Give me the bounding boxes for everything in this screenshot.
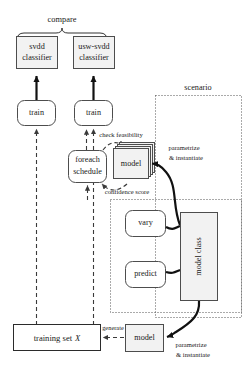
usw-svdd-classifier-label-line2: classifier bbox=[79, 53, 109, 62]
generate-label: generate bbox=[102, 324, 124, 331]
edge-model-class-to-model-bottom bbox=[167, 301, 199, 337]
train-right-label: train bbox=[86, 108, 101, 117]
compare-label: compare bbox=[48, 15, 77, 24]
foreach-schedule-label-line2: schedule bbox=[73, 167, 102, 176]
check-feasibility-label: check feasibility bbox=[99, 131, 143, 138]
predict-label: predict bbox=[134, 269, 157, 278]
parametrize-bottom-label-line1: parametrize bbox=[175, 341, 206, 348]
training-set-label-text: training set bbox=[34, 332, 73, 342]
parametrize-bottom-label-line2: & instantiate bbox=[176, 351, 210, 358]
svdd-classifier-label-line1: svdd bbox=[29, 42, 44, 51]
edge-predict-to-model-class bbox=[166, 270, 180, 273]
training-set-label-variable: X bbox=[74, 332, 81, 342]
model-bottom-label: model bbox=[134, 333, 155, 342]
model-stack-label: model bbox=[121, 159, 142, 168]
svdd-classifier-label-line2: classifier bbox=[22, 53, 52, 62]
parametrize-top-label-line1: parametrize bbox=[168, 144, 199, 151]
confidence-score-label: confidence score bbox=[105, 188, 150, 195]
parametrize-top-label-line2: & instantiate bbox=[169, 154, 203, 161]
vary-label: vary bbox=[138, 218, 153, 227]
train-left-label: train bbox=[29, 108, 44, 117]
usw-svdd-classifier-label-line1: usw-svdd bbox=[78, 42, 109, 51]
workflow-diagram: scenario compare svdd classifier usw-svd… bbox=[0, 0, 244, 375]
model-class-label: model class bbox=[194, 237, 203, 275]
edge-vary-to-model-class bbox=[166, 226, 180, 229]
scenario-region-label: scenario bbox=[184, 83, 211, 92]
diagram-canvas: scenario compare svdd classifier usw-svd… bbox=[0, 0, 244, 375]
foreach-schedule-label-line1: foreach bbox=[75, 155, 100, 164]
